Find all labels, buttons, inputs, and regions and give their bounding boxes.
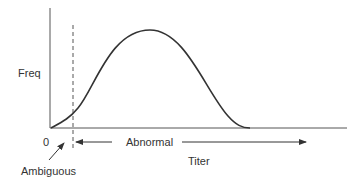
ambiguous-pointer-arrow bbox=[49, 143, 64, 160]
abnormal-label: Abnormal bbox=[126, 136, 173, 148]
titer-frequency-diagram: Freq 0 Abnormal Titer Ambiguous bbox=[0, 0, 364, 183]
frequency-curve bbox=[51, 30, 250, 128]
x-axis-label: Titer bbox=[188, 155, 210, 167]
origin-label: 0 bbox=[43, 136, 49, 148]
ambiguous-label: Ambiguous bbox=[21, 165, 77, 177]
y-axis-label: Freq bbox=[18, 67, 41, 79]
